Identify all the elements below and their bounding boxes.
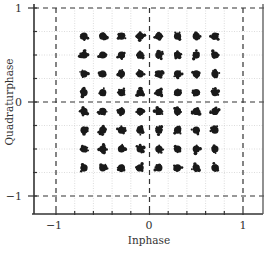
y-tick-label-minus1: −1: [6, 190, 22, 203]
symbol-cluster: [97, 143, 108, 154]
symbol-cluster: [80, 163, 88, 173]
symbol-cluster: [211, 144, 218, 154]
symbol-cluster: [155, 125, 163, 136]
symbol-cluster: [192, 89, 201, 97]
x-axis-label: Inphase: [128, 234, 170, 246]
symbol-cluster: [211, 162, 219, 172]
symbol-cluster: [154, 88, 163, 98]
symbol-cluster: [173, 164, 183, 172]
symbol-cluster: [135, 108, 145, 116]
symbol-cluster: [173, 106, 182, 116]
symbol-cluster: [211, 49, 219, 59]
symbol-cluster: [135, 162, 144, 172]
symbol-cluster: [155, 50, 164, 61]
symbol-cluster: [97, 108, 108, 116]
symbol-cluster: [191, 127, 200, 136]
x-tick-label-1: 1: [240, 219, 247, 232]
symbol-cluster: [136, 125, 144, 135]
symbol-cluster: [155, 145, 164, 154]
y-tick-label-0: 0: [15, 96, 22, 109]
symbol-cluster: [80, 145, 89, 153]
symbol-cluster: [192, 49, 200, 60]
symbol-cluster: [135, 87, 145, 97]
symbol-cluster: [174, 50, 182, 59]
symbol-cluster: [174, 32, 181, 41]
symbol-cluster: [174, 145, 182, 153]
x-tick-label-0: 0: [146, 219, 153, 232]
symbol-cluster: [117, 88, 126, 97]
symbol-cluster: [209, 33, 220, 41]
symbol-cluster: [80, 87, 88, 98]
symbol-cluster: [173, 125, 181, 134]
symbol-cluster: [193, 32, 202, 41]
symbol-cluster: [118, 144, 127, 153]
x-tick-label-minus1: −1: [46, 219, 62, 232]
symbol-cluster: [80, 126, 88, 135]
dashed-reference-lines: [34, 8, 267, 214]
symbol-cluster: [135, 31, 146, 42]
symbol-cluster: [211, 87, 220, 96]
y-tick-label-1: 1: [15, 2, 22, 15]
symbol-cluster: [173, 70, 183, 79]
symbol-cluster: [191, 107, 202, 116]
symbol-cluster: [116, 125, 127, 134]
symbol-cluster: [98, 87, 106, 96]
symbol-cluster: [79, 70, 90, 79]
symbol-cluster: [97, 51, 107, 58]
symbol-cluster: [78, 49, 89, 58]
symbol-cluster: [136, 50, 145, 59]
symbol-cluster: [153, 32, 163, 41]
grid-lines: [34, 8, 263, 214]
symbol-cluster: [191, 70, 201, 79]
symbol-cluster: [191, 162, 201, 172]
symbol-cluster: [99, 163, 108, 171]
symbol-cluster: [117, 33, 127, 40]
symbol-cluster: [80, 33, 90, 41]
symbol-cluster: [153, 163, 162, 171]
symbol-cluster: [209, 125, 218, 134]
constellation-chart: 1 0 −1 −1 0 1 Inphase Quadraturphase: [0, 0, 271, 253]
symbol-cluster: [209, 107, 220, 115]
symbol-cluster: [153, 106, 164, 115]
symbol-cluster: [116, 69, 125, 79]
y-axis-label: Quadraturphase: [3, 59, 15, 146]
axes-frame: [32, 4, 263, 214]
symbol-cluster: [155, 70, 165, 79]
symbol-cluster: [193, 144, 202, 155]
symbol-cluster: [117, 164, 126, 172]
symbol-cluster: [116, 107, 125, 116]
symbol-cluster: [174, 89, 182, 97]
symbol-cluster: [98, 70, 107, 77]
symbol-cluster: [136, 69, 146, 77]
symbol-cluster: [79, 106, 89, 117]
symbol-cluster: [211, 69, 220, 79]
symbol-cluster: [97, 125, 107, 136]
symbol-cluster: [116, 51, 125, 60]
symbol-cluster: [136, 144, 146, 154]
symbol-cluster: [99, 32, 109, 40]
